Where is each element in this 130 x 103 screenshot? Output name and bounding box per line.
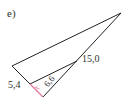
outer-top-side xyxy=(12,13,121,66)
label-15-0: 15,0 xyxy=(82,54,100,64)
part-label: e) xyxy=(7,8,16,19)
label-5-4: 5,4 xyxy=(8,80,21,90)
